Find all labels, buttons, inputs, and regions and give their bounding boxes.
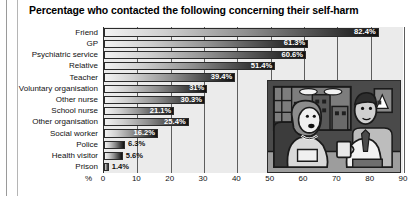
x-tick-0: 0 [101, 174, 105, 183]
x-tick-90: 90 [399, 174, 408, 183]
x-tick-60: 60 [299, 174, 308, 183]
bar-value-label: 39.4% [211, 73, 233, 82]
category-label-social-worker: Social worker [50, 130, 98, 138]
bar-row: 51.4% [104, 61, 404, 72]
category-label-other-nurse: Other nurse [56, 96, 98, 104]
bar-friend [104, 28, 379, 36]
bar-health-visitor [104, 152, 123, 160]
bar-value-label: 60.6% [281, 51, 303, 60]
decorative-illustration [267, 80, 401, 173]
category-label-other-organisation: Other organisation [32, 118, 98, 126]
bar-value-label: 82.4% [354, 28, 376, 37]
bar-police [104, 141, 125, 149]
x-tick-40: 40 [232, 174, 241, 183]
bar-row: 82.4% [104, 27, 404, 38]
chart-title: Percentage who contacted the following c… [29, 4, 359, 16]
category-label-health-visitor: Health visitor [52, 152, 98, 160]
two-people-talking-cartoon-icon [268, 81, 400, 172]
bar-value-label: 6.3% [128, 140, 145, 149]
x-tick-70: 70 [332, 174, 341, 183]
value-axis-ticks: 0102030405060708090 [0, 174, 419, 188]
bar-value-label: 1.4% [112, 163, 129, 172]
bar-value-label: 16.2% [133, 129, 155, 138]
bar-psychiatric-service [104, 51, 306, 59]
x-tick-20: 20 [165, 174, 174, 183]
bar-row: 60.6% [104, 49, 404, 60]
bar-value-label: 51.4% [251, 62, 273, 71]
bar-gp [104, 40, 308, 48]
category-label-prison: Prison [75, 163, 98, 171]
bar-value-label: 5.6% [126, 152, 143, 161]
bar-row: 61.3% [104, 38, 404, 49]
bar-value-label: 25.4% [164, 118, 186, 127]
category-label-gp: GP [86, 40, 98, 48]
x-tick-80: 80 [365, 174, 374, 183]
bar-value-label: 30.3% [180, 96, 202, 105]
category-label-voluntary-organisation: Voluntary organisation [19, 85, 98, 93]
bar-value-label: 21.1% [150, 107, 172, 116]
category-label-police: Police [76, 141, 98, 149]
x-tick-10: 10 [132, 174, 141, 183]
bar-value-label: 61.3% [284, 39, 306, 48]
bar-value-label: 31% [189, 84, 204, 93]
gridline-90 [404, 27, 405, 173]
category-label-psychiatric-service: Psychiatric service [32, 51, 98, 59]
category-label-teacher: Teacher [70, 74, 98, 82]
x-tick-50: 50 [265, 174, 274, 183]
category-label-relative: Relative [69, 62, 98, 70]
bar-relative [104, 62, 275, 70]
chart-figure: Percentage who contacted the following c… [0, 0, 419, 197]
x-tick-30: 30 [199, 174, 208, 183]
category-label-friend: Friend [75, 29, 98, 37]
category-axis-labels: FriendGPPsychiatric serviceRelativeTeach… [0, 27, 100, 173]
category-label-school-nurse: School nurse [51, 107, 98, 115]
bar-prison [104, 163, 109, 171]
